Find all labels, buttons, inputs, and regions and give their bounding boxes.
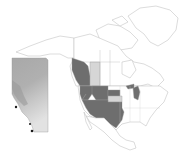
- region-south-dakota: [108, 90, 120, 96]
- map-figure: [0, 0, 187, 155]
- alberta-inset: [12, 58, 48, 132]
- region-alberta: [90, 62, 100, 86]
- inset-point: [31, 130, 34, 133]
- inset-point: [29, 123, 31, 125]
- arctic-island-2: [112, 16, 128, 26]
- north-america-map: [0, 0, 187, 155]
- inset-point: [15, 106, 17, 108]
- region-montana-wyoming: [92, 86, 108, 100]
- alaska: [16, 36, 74, 58]
